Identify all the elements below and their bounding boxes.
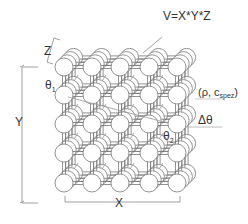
sphere [168,115,186,133]
sphere [168,144,186,162]
sphere [55,58,73,76]
sphere [83,174,101,192]
sphere [55,115,73,133]
lattice-diagram: V=X*Y*Z Z Y X θ1 θ2 (ρ, cspez) Δθ [0,0,248,224]
sphere [140,86,158,104]
sphere [140,58,158,76]
theta1-label: θ1 [45,78,56,93]
sphere [83,144,101,162]
sphere [168,86,186,104]
sphere [83,115,101,133]
sphere [55,144,73,162]
sphere-lattice [55,48,196,192]
sphere [111,86,129,104]
y-label: Y [15,115,23,129]
sphere [111,144,129,162]
sphere [111,174,129,192]
y-dimension-line [22,67,38,203]
sphere [55,174,73,192]
sphere [168,58,186,76]
volume-label: V=X*Y*Z [163,9,211,23]
sphere [55,86,73,104]
sphere [83,58,101,76]
x-label: X [115,196,123,210]
delta-theta-label: Δθ [198,113,213,127]
sphere [111,58,129,76]
sphere [140,174,158,192]
sphere [168,174,186,192]
sphere [111,115,129,133]
z-label: Z [44,44,51,58]
sphere [140,144,158,162]
density-heat-capacity-label: (ρ, cspez) [198,86,238,100]
